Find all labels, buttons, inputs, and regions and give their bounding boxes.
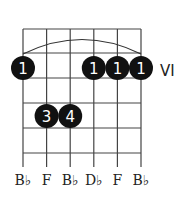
finger-dot: 4	[58, 104, 82, 128]
finger-number: 1	[113, 60, 123, 78]
note-label: D♭	[85, 172, 103, 188]
fretboard-grid	[23, 29, 141, 167]
note-label: B♭	[15, 172, 32, 188]
note-label: B♭	[62, 172, 79, 188]
finger-number: 4	[65, 108, 75, 126]
barre-arc	[23, 40, 141, 55]
note-label: B♭	[133, 172, 150, 188]
finger-dot: 1	[129, 56, 153, 80]
finger-dot: 1	[11, 56, 35, 80]
string-note-labels: B♭ F B♭ D♭ F B♭	[15, 172, 150, 188]
finger-number: 3	[42, 108, 52, 126]
fret-position-label: VI	[160, 62, 175, 80]
note-label: F	[113, 172, 123, 188]
note-label: F	[42, 172, 52, 188]
chord-diagram: 1 1 1 1 3 4 VI B♭ F B♭ D♭ F B♭	[0, 0, 187, 210]
finger-number: 1	[136, 60, 146, 78]
finger-dot: 1	[105, 56, 129, 80]
finger-number: 1	[89, 60, 99, 78]
finger-dot: 3	[35, 104, 59, 128]
finger-dot: 1	[82, 56, 106, 80]
finger-number: 1	[18, 60, 28, 78]
